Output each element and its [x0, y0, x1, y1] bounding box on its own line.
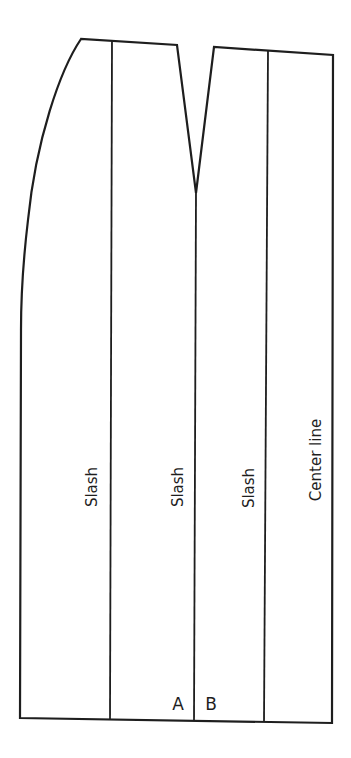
center-line-label: Center line	[307, 419, 325, 501]
point-b-label: B	[205, 694, 217, 714]
slash-label-1: Slash	[83, 467, 101, 507]
dart-center-line	[194, 193, 196, 721]
pattern-outline	[20, 39, 333, 723]
slash-label-2: Slash	[169, 467, 187, 507]
slash-line-1	[110, 41, 112, 719]
slash-line-3	[264, 51, 268, 722]
point-a-label: A	[172, 694, 184, 714]
slash-label-3: Slash	[240, 468, 258, 508]
skirt-pattern-diagram: Slash Slash Slash Center line A B	[0, 0, 351, 758]
